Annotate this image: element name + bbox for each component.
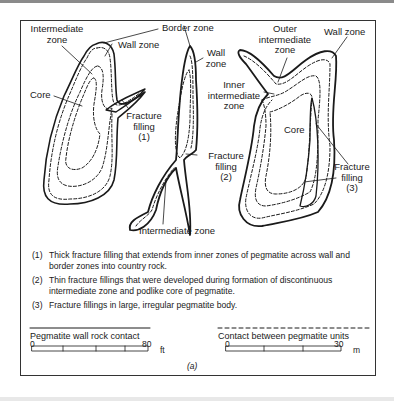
- label-fracture-filling-3: Fracture filling (3): [330, 162, 374, 194]
- figure-caption: (a): [187, 361, 197, 371]
- label-fracture-filling-2: Fracture filling (2): [206, 151, 246, 183]
- legend-solid-label: Pegmatite wall rock contact: [30, 331, 140, 341]
- label-inner-intermediate-zone: Inner intermediate zone: [206, 80, 262, 112]
- scale-bar-m: [226, 346, 341, 351]
- bottom-edge-bar: [0, 397, 394, 401]
- label-wall-zone-1: Wall zone: [118, 40, 159, 51]
- pegmatite-body-3: [238, 50, 336, 226]
- note-item: (1) Thick fracture filling that extends …: [32, 250, 372, 271]
- note-item: (2) Thin fracture fillings that were dev…: [32, 275, 372, 296]
- note-item: (3) Fracture fillings in large, irregula…: [32, 300, 372, 311]
- scale-m-end: 30: [334, 339, 343, 349]
- scale-ft-unit: ft: [160, 345, 165, 355]
- scale-ft-start: 0: [30, 339, 35, 349]
- legend-dashed-label: Contact between pegmatite units: [218, 331, 349, 341]
- notes-list: (1) Thick fracture filling that extends …: [32, 250, 372, 315]
- scale-ft-end: 80: [142, 339, 151, 349]
- label-intermediate-zone-1: Intermediate zone: [24, 24, 90, 45]
- label-core-3: Core: [284, 125, 305, 136]
- scale-m-start: 0: [225, 339, 230, 349]
- label-intermediate-zone-2: Intermediate zone: [139, 226, 215, 237]
- label-wall-zone-2: Wall zone: [203, 48, 229, 69]
- label-wall-zone-3: Wall zone: [324, 27, 365, 38]
- label-border-zone: Border zone: [162, 23, 214, 34]
- label-outer-intermediate-zone: Outer intermediate zone: [254, 24, 316, 56]
- label-core-1: Core: [30, 90, 51, 101]
- scale-bar-ft: [32, 346, 148, 351]
- scale-m-unit: m: [353, 345, 360, 355]
- label-fracture-filling-1: Fracture filling (1): [124, 111, 164, 143]
